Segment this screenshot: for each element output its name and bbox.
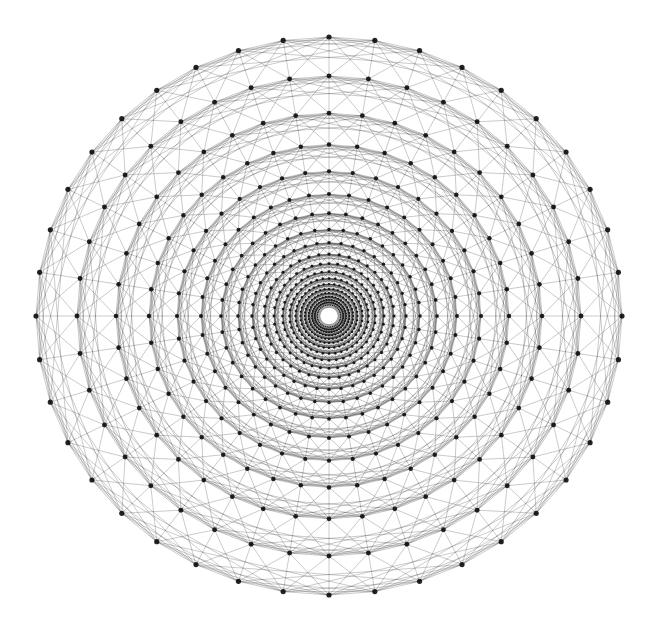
graph-node bbox=[376, 223, 380, 227]
graph-node bbox=[335, 306, 336, 307]
graph-node bbox=[323, 331, 325, 333]
graph-node bbox=[293, 113, 298, 118]
graph-node bbox=[345, 310, 347, 312]
graph-node bbox=[240, 254, 244, 258]
graph-node bbox=[311, 265, 314, 268]
graph-node bbox=[316, 323, 318, 325]
graph-node bbox=[360, 337, 363, 340]
graph-node bbox=[453, 295, 457, 299]
graph-node bbox=[385, 343, 388, 346]
graph-node bbox=[308, 318, 310, 320]
graph-node bbox=[254, 263, 258, 267]
graph-node bbox=[343, 343, 345, 345]
graph-node bbox=[498, 261, 502, 265]
graph-node bbox=[418, 314, 422, 318]
graph-node bbox=[295, 272, 298, 275]
graph-node bbox=[382, 323, 385, 326]
graph-node bbox=[251, 326, 254, 329]
graph-node bbox=[327, 388, 330, 391]
graph-node bbox=[325, 296, 327, 298]
graph-node bbox=[454, 435, 458, 439]
graph-node bbox=[303, 268, 306, 271]
graph-node bbox=[102, 205, 107, 210]
graph-node bbox=[372, 284, 375, 287]
graph-node bbox=[351, 345, 354, 348]
graph-node bbox=[328, 304, 329, 305]
graph-node bbox=[322, 297, 324, 299]
graph-node bbox=[328, 347, 330, 349]
graph-node bbox=[338, 253, 341, 256]
graph-node bbox=[273, 323, 276, 326]
graph-node bbox=[265, 271, 268, 274]
graph-node bbox=[323, 342, 325, 344]
graph-node bbox=[317, 319, 318, 320]
graph-node bbox=[278, 406, 282, 410]
graph-node bbox=[390, 357, 393, 360]
graph-node bbox=[327, 376, 330, 379]
graph-node bbox=[352, 319, 354, 321]
graph-node bbox=[453, 333, 457, 337]
graph-node bbox=[282, 308, 285, 311]
graph-node bbox=[372, 301, 375, 304]
graph-node bbox=[337, 323, 338, 324]
graph-node bbox=[282, 322, 285, 325]
graph-node bbox=[334, 297, 336, 299]
graph-node bbox=[311, 315, 313, 317]
graph-node bbox=[205, 276, 209, 280]
graph-node bbox=[414, 287, 418, 291]
graph-node bbox=[385, 205, 389, 209]
graph-node bbox=[316, 315, 317, 316]
graph-node bbox=[563, 149, 568, 154]
graph-node bbox=[348, 373, 351, 376]
graph-node bbox=[266, 334, 269, 337]
graph-node bbox=[340, 323, 342, 325]
graph-node bbox=[299, 232, 303, 236]
graph-node bbox=[89, 477, 94, 482]
graph-node bbox=[360, 272, 363, 275]
graph-node bbox=[316, 279, 319, 282]
graph-node bbox=[303, 327, 305, 329]
graph-node bbox=[296, 305, 298, 307]
graph-node bbox=[314, 317, 316, 319]
graph-node bbox=[341, 321, 343, 323]
graph-node bbox=[305, 308, 307, 310]
graph-node bbox=[293, 514, 298, 519]
graph-node bbox=[264, 231, 268, 235]
graph-node bbox=[312, 310, 314, 312]
graph-node bbox=[377, 291, 380, 294]
graph-node bbox=[212, 100, 217, 105]
graph-node bbox=[360, 325, 362, 327]
graph-node bbox=[563, 477, 568, 482]
graph-node bbox=[396, 348, 399, 351]
graph-node bbox=[223, 242, 227, 246]
graph-node bbox=[404, 387, 408, 391]
graph-node bbox=[416, 431, 420, 435]
graph-node bbox=[314, 329, 316, 331]
graph-node bbox=[403, 326, 406, 329]
graph-node bbox=[269, 423, 273, 427]
graph-node bbox=[199, 314, 203, 318]
graph-node bbox=[361, 216, 365, 220]
graph-node bbox=[537, 282, 542, 287]
graph-node bbox=[298, 370, 301, 373]
graph-node bbox=[308, 296, 310, 298]
graph-node bbox=[401, 337, 404, 340]
graph-node bbox=[339, 312, 340, 313]
graph-node bbox=[254, 365, 258, 369]
graph-node bbox=[337, 326, 339, 328]
graph-node bbox=[119, 511, 124, 516]
graph-node bbox=[205, 352, 209, 356]
graph-node bbox=[366, 76, 371, 81]
graph-node bbox=[264, 397, 268, 401]
graph-node bbox=[176, 457, 181, 462]
graph-node bbox=[328, 292, 330, 294]
graph-node bbox=[306, 325, 308, 327]
graph-node bbox=[505, 287, 509, 291]
graph-node bbox=[342, 319, 344, 321]
graph-node bbox=[369, 237, 373, 241]
graph-node bbox=[156, 261, 160, 265]
graph-node bbox=[290, 303, 293, 306]
graph-node bbox=[338, 328, 340, 330]
graph-node bbox=[334, 305, 335, 306]
graph-node bbox=[401, 263, 405, 267]
